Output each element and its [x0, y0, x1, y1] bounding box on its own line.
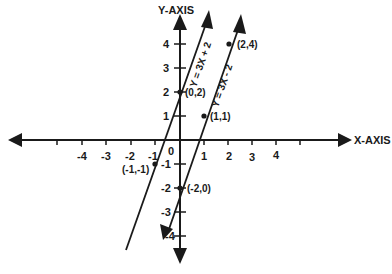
svg-text:-2: -2	[161, 182, 171, 194]
svg-text:1: 1	[163, 110, 169, 122]
svg-text:(1,1): (1,1)	[210, 111, 231, 122]
x-tick-labels: -4 -3 -2 -1 1 2 3 4	[77, 149, 280, 163]
point-0-2	[177, 89, 182, 94]
line2-equation-label: Y = 3X - 2	[209, 63, 234, 109]
line1-arrow-icon	[201, 10, 213, 29]
point-2-4	[226, 41, 231, 46]
svg-text:-2: -2	[125, 150, 135, 162]
line2-arrow-icon	[233, 14, 246, 34]
svg-text:3: 3	[249, 151, 255, 163]
svg-text:4: 4	[163, 38, 170, 50]
point-1-1	[201, 113, 206, 118]
svg-text:(-1,-1): (-1,-1)	[122, 164, 149, 175]
svg-text:(2,4): (2,4)	[237, 39, 258, 50]
svg-text:4: 4	[273, 149, 280, 161]
graph: Y-AXIS X-AXIS 0 -4 -3 -2 -1 1 2 3 4 4 3 …	[0, 0, 392, 274]
svg-text:-3: -3	[161, 206, 171, 218]
svg-text:3: 3	[163, 62, 169, 74]
origin-label: 0	[168, 145, 174, 157]
svg-text:(-2,0): (-2,0)	[187, 183, 211, 194]
point-m1-m1	[152, 161, 157, 166]
svg-text:2: 2	[163, 86, 169, 98]
svg-text:-1: -1	[148, 150, 158, 162]
y-axis-up-arrow-icon	[173, 14, 187, 30]
y-axis-label: Y-AXIS	[158, 4, 194, 16]
svg-text:2: 2	[226, 150, 232, 162]
point-0-m2	[177, 185, 182, 190]
svg-text:-3: -3	[101, 150, 111, 162]
svg-text:-1: -1	[161, 158, 171, 170]
svg-text:-4: -4	[165, 230, 176, 242]
svg-text:1: 1	[201, 150, 207, 162]
svg-text:-4: -4	[77, 150, 88, 162]
y-axis-down-arrow-icon	[173, 248, 187, 264]
x-axis-right-arrow-icon	[338, 133, 352, 147]
x-axis-label: X-AXIS	[354, 134, 391, 146]
x-axis-left-arrow-icon	[8, 133, 22, 147]
